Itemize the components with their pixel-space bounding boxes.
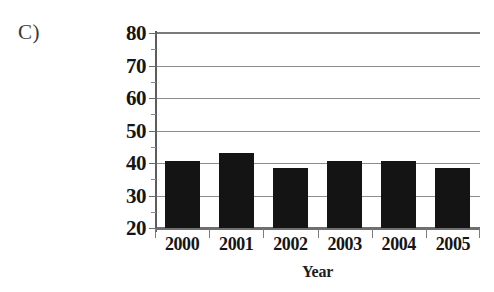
panel-label: C) (18, 20, 40, 45)
bar (435, 168, 470, 228)
y-tick-label: 40 (104, 153, 146, 174)
y-tick-label: 60 (104, 88, 146, 109)
y-tick-label: 70 (104, 55, 146, 76)
bar (219, 153, 254, 228)
x-tick-label: 2005 (425, 234, 481, 255)
x-tick-label: 2001 (208, 234, 264, 255)
bar (327, 161, 362, 228)
bar (381, 161, 416, 228)
x-tick-label: 2000 (154, 234, 210, 255)
bar-series (155, 33, 480, 228)
x-axis-tick-labels: 200020012002200320042005 (155, 234, 480, 258)
y-tick-label: 50 (104, 120, 146, 141)
y-tick-label: 30 (104, 185, 146, 206)
y-tick-label: 80 (104, 23, 146, 44)
bar (273, 168, 308, 228)
x-tick-label: 2002 (262, 234, 318, 255)
plot-area (155, 33, 480, 228)
y-tick-label: 20 (104, 218, 146, 239)
x-tick-label: 2003 (317, 234, 373, 255)
x-tick-label: 2004 (371, 234, 427, 255)
bar (165, 161, 200, 228)
y-axis-tick-labels: 20304050607080 (104, 33, 146, 228)
x-axis-title: Year (155, 263, 480, 281)
